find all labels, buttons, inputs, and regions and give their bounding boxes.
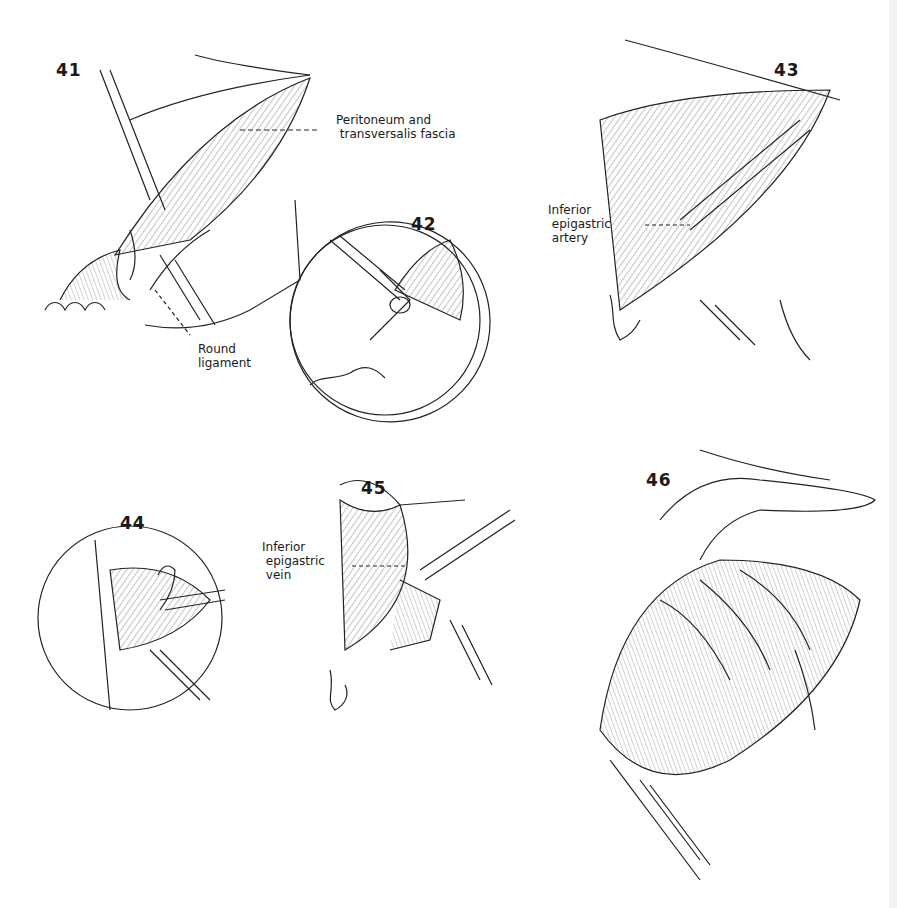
figure-46-drawing: [600, 450, 875, 880]
figure-43-drawing: [600, 40, 840, 360]
figure-number-44: 44: [120, 513, 146, 533]
figure-number-43: 43: [774, 60, 800, 80]
figure-number-46: 46: [646, 470, 672, 490]
figure-45-drawing: [330, 481, 515, 711]
label-peritoneum: Peritoneum and transversalis fascia: [336, 113, 456, 141]
figure-number-41: 41: [56, 60, 82, 80]
label-inferior-epigastric-vein: Inferior epigastric vein: [262, 540, 325, 582]
label-inferior-epigastric-artery: Inferior epigastric artery: [548, 203, 611, 245]
figure-41-drawing: [45, 55, 320, 335]
figure-44-drawing: [38, 526, 225, 710]
label-round-ligament: Round ligament: [198, 342, 251, 370]
figure-number-42: 42: [411, 214, 437, 234]
page-edge: [889, 0, 897, 908]
figure-42-drawing: [290, 222, 490, 422]
figure-number-45: 45: [361, 478, 387, 498]
